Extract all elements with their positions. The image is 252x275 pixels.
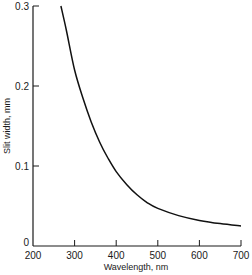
axes bbox=[33, 6, 241, 246]
x-tick-label: 200 bbox=[25, 250, 42, 261]
x-tick-label: 500 bbox=[149, 250, 166, 261]
x-tick-label: 600 bbox=[191, 250, 208, 261]
y-tick-label: 0.2 bbox=[15, 81, 29, 92]
x-tick-label: 400 bbox=[108, 250, 125, 261]
x-tick-label: 700 bbox=[233, 250, 250, 261]
x-ticks: 200300400500600700 bbox=[25, 240, 250, 261]
data-curve bbox=[61, 6, 241, 226]
y-axis-title: Slit width, mm bbox=[2, 98, 12, 154]
x-tick-label: 300 bbox=[66, 250, 83, 261]
x-axis-title: Wavelength, nm bbox=[104, 262, 169, 272]
chart: 00.10.20.3 200300400500600700 Wavelength… bbox=[0, 0, 252, 275]
y-tick-label: 0.3 bbox=[15, 1, 29, 12]
y-tick-label: 0.1 bbox=[15, 161, 29, 172]
y-ticks: 00.10.20.3 bbox=[15, 1, 39, 249]
y-tick-label: 0 bbox=[23, 237, 29, 248]
